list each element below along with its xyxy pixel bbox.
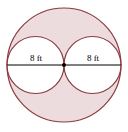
left-radius-label: 8 ft	[30, 53, 43, 63]
center-point	[62, 63, 66, 67]
circle-diagram: 8 ft 8 ft	[0, 0, 128, 132]
right-radius-label: 8 ft	[87, 53, 100, 63]
